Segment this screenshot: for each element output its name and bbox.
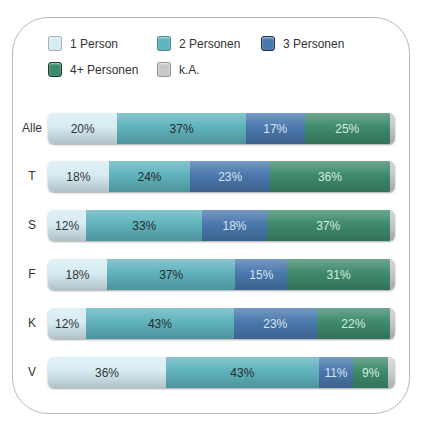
segment-1-person: 36% xyxy=(48,357,166,388)
segment-1-person: 20% xyxy=(48,113,117,144)
segment-value: 15% xyxy=(249,268,273,282)
segment-2-personen: 24% xyxy=(109,161,191,192)
legend-item-1-person: 1 Person xyxy=(48,36,118,51)
segment-3-personen: 17% xyxy=(246,113,305,144)
row-label: V xyxy=(14,357,50,388)
segment-3-personen: 18% xyxy=(202,210,266,241)
segment-ka xyxy=(390,210,395,241)
segment-4plus-personen: 9% xyxy=(353,357,388,388)
segment-value: 17% xyxy=(263,122,287,136)
segment-value: 43% xyxy=(148,317,172,331)
swatch-4plus-personen-icon xyxy=(48,62,62,77)
stacked-bar: 18% 24% 23% 36% xyxy=(48,161,395,192)
segment-value: 37% xyxy=(170,122,194,136)
legend-item-2-personen: 2 Personen xyxy=(157,36,240,51)
segment-value: 12% xyxy=(55,219,79,233)
segment-value: 18% xyxy=(65,268,89,282)
row-label: F xyxy=(14,259,50,290)
bar-row-t: T 18% 24% 23% 36% xyxy=(0,161,421,192)
segment-2-personen: 33% xyxy=(86,210,202,241)
segment-3-personen: 23% xyxy=(234,308,317,339)
legend-label: 2 Personen xyxy=(179,37,240,51)
segment-value: 33% xyxy=(132,219,156,233)
segment-value: 24% xyxy=(137,170,161,184)
legend-label: k.A. xyxy=(179,63,200,77)
segment-value: 9% xyxy=(362,366,379,380)
segment-3-personen: 23% xyxy=(190,161,270,192)
legend-label: 4+ Personen xyxy=(70,63,138,77)
bar-row-alle: Alle 20% 37% 17% 25% xyxy=(0,113,421,144)
segment-ka xyxy=(390,113,395,144)
legend-item-ka: k.A. xyxy=(157,62,200,77)
swatch-1-person-icon xyxy=(48,36,62,51)
legend: 1 Person 2 Personen 3 Personen 4+ Person… xyxy=(0,0,421,90)
bar-row-f: F 18% 37% 15% 31% xyxy=(0,259,421,290)
segment-value: 43% xyxy=(230,366,254,380)
segment-2-personen: 43% xyxy=(166,357,319,388)
segment-1-person: 12% xyxy=(48,210,86,241)
segment-4plus-personen: 25% xyxy=(305,113,390,144)
segment-2-personen: 43% xyxy=(86,308,233,339)
legend-label: 3 Personen xyxy=(283,37,344,51)
segment-ka xyxy=(390,161,395,192)
segment-4plus-personen: 31% xyxy=(287,259,389,290)
segment-4plus-personen: 37% xyxy=(267,210,390,241)
segment-ka xyxy=(388,357,395,388)
row-label: Alle xyxy=(14,113,50,144)
segment-value: 36% xyxy=(95,366,119,380)
stacked-bar: 12% 43% 23% 22% xyxy=(48,308,395,339)
segment-value: 18% xyxy=(222,219,246,233)
legend-item-4plus-personen: 4+ Personen xyxy=(48,62,138,77)
segment-3-personen: 15% xyxy=(235,259,287,290)
legend-item-3-personen: 3 Personen xyxy=(261,36,344,51)
segment-ka xyxy=(390,259,395,290)
segment-1-person: 12% xyxy=(48,308,86,339)
segment-value: 23% xyxy=(263,317,287,331)
row-label: S xyxy=(14,210,50,241)
segment-1-person: 18% xyxy=(48,161,109,192)
segment-value: 37% xyxy=(316,219,340,233)
segment-value: 31% xyxy=(327,268,351,282)
swatch-ka-icon xyxy=(157,62,171,77)
segment-value: 12% xyxy=(55,317,79,331)
segment-2-personen: 37% xyxy=(107,259,235,290)
swatch-3-personen-icon xyxy=(261,36,275,51)
bar-row-s: S 12% 33% 18% 37% xyxy=(0,210,421,241)
segment-1-person: 18% xyxy=(48,259,107,290)
stacked-bar: 18% 37% 15% 31% xyxy=(48,259,395,290)
segment-4plus-personen: 22% xyxy=(317,308,390,339)
row-label: K xyxy=(14,308,50,339)
segment-ka xyxy=(390,308,395,339)
segment-value: 25% xyxy=(335,122,359,136)
stacked-bar: 12% 33% 18% 37% xyxy=(48,210,395,241)
segment-2-personen: 37% xyxy=(117,113,245,144)
swatch-2-personen-icon xyxy=(157,36,171,51)
segment-value: 22% xyxy=(341,317,365,331)
stacked-bar: 20% 37% 17% 25% xyxy=(48,113,395,144)
legend-label: 1 Person xyxy=(70,37,118,51)
row-label: T xyxy=(14,161,50,192)
segment-value: 37% xyxy=(159,268,183,282)
stacked-bar: 36% 43% 11% 9% xyxy=(48,357,395,388)
segment-value: 11% xyxy=(324,366,347,380)
segment-value: 20% xyxy=(71,122,95,136)
segment-4plus-personen: 36% xyxy=(270,161,390,192)
segment-value: 18% xyxy=(66,170,90,184)
segment-value: 36% xyxy=(318,170,342,184)
segment-value: 23% xyxy=(218,170,242,184)
segment-3-personen: 11% xyxy=(319,357,354,388)
bar-row-k: K 12% 43% 23% 22% xyxy=(0,308,421,339)
bar-row-v: V 36% 43% 11% 9% xyxy=(0,357,421,388)
